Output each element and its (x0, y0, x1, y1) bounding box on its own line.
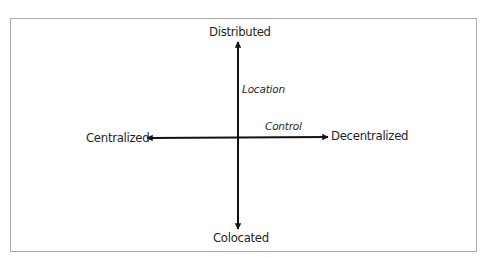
label-distributed: Distributed (209, 25, 271, 38)
horizontal-axis-line (147, 137, 328, 138)
axis-label-location: Location (242, 84, 285, 95)
axis-label-control: Control (265, 121, 302, 132)
label-centralized: Centralized (86, 131, 149, 144)
label-decentralized: Decentralized (331, 129, 408, 142)
label-colocated: Colocated (213, 231, 269, 244)
